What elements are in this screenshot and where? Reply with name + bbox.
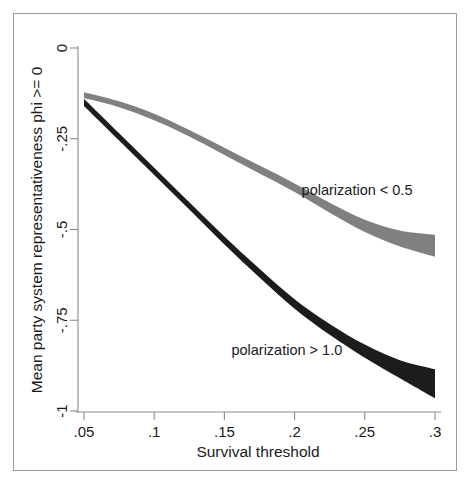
y-tick-label: 0 <box>53 44 70 52</box>
y-axis: 0-.25-.5-.75-1 Mean party system represe… <box>28 44 78 418</box>
x-axis-title: Survival threshold <box>196 443 319 460</box>
x-tick-labels: .05.1.15.2.25.3 <box>74 423 442 440</box>
x-tick-label: .25 <box>354 423 375 440</box>
y-tick-label: -.75 <box>53 307 70 333</box>
y-tick-labels: 0-.25-.5-.75-1 <box>53 44 70 418</box>
annotation-polarization-low: polarization < 0.5 <box>302 182 413 198</box>
x-tick-label: .05 <box>74 423 95 440</box>
x-tick-label: .15 <box>214 423 235 440</box>
series-band-polarization-low <box>84 92 435 256</box>
chart-canvas: 0-.25-.5-.75-1 Mean party system represe… <box>0 0 471 486</box>
y-tick-label: -1 <box>53 404 70 417</box>
x-tick-label: .3 <box>429 423 442 440</box>
figure-root: 0-.25-.5-.75-1 Mean party system represe… <box>0 0 471 486</box>
x-tick-marks <box>84 412 435 420</box>
x-tick-label: .1 <box>148 423 161 440</box>
annotation-polarization-high: polarization > 1.0 <box>231 342 342 358</box>
x-tick-label: .2 <box>288 423 301 440</box>
y-tick-label: -.5 <box>53 221 70 239</box>
y-tick-label: -.25 <box>53 126 70 152</box>
y-axis-title: Mean party system representativeness phi… <box>28 66 45 393</box>
x-axis: .05.1.15.2.25.3 Survival threshold <box>74 412 442 460</box>
y-tick-marks <box>70 48 78 411</box>
